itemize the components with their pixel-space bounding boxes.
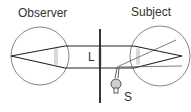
illum-ray-1 (117, 40, 176, 67)
observer-eye (11, 27, 69, 85)
subject-label: Subject (131, 6, 171, 18)
lens-label: L (88, 51, 95, 63)
subject-ray-top (134, 46, 182, 56)
source-label: S (124, 91, 132, 103)
observer-eye-lens (54, 48, 58, 65)
observer-label: Observer (18, 7, 67, 19)
illum-ray-2 (119, 66, 182, 67)
light-source-icon (111, 68, 121, 93)
